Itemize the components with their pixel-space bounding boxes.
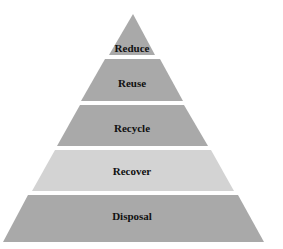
tier-recycle-label: Recycle [114, 122, 150, 134]
tier-reuse: Reuse [81, 59, 183, 101]
tier-reduce-label: Reduce [115, 42, 150, 54]
tier-recycle: Recycle [57, 105, 208, 146]
tier-disposal-label: Disposal [112, 210, 152, 222]
waste-hierarchy-pyramid: Reduce Reuse Recycle Recover Disposal [0, 0, 283, 249]
tier-recover-label: Recover [113, 165, 152, 177]
tier-reuse-label: Reuse [118, 77, 146, 89]
tier-disposal: Disposal [3, 195, 264, 242]
tier-recover: Recover [32, 150, 234, 191]
tier-reduce: Reduce [109, 14, 155, 55]
